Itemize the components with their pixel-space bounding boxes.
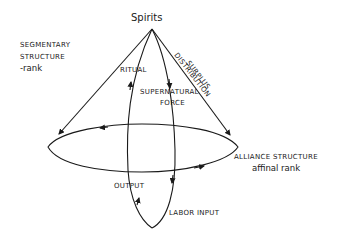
alliance-label-line1: ALLIANCE STRUCTURE	[234, 154, 318, 161]
supernatural-label-line1: SUPERNATURAL	[140, 89, 199, 96]
output-label: OUTPUT	[114, 183, 144, 190]
surplus-distribution-arrow	[152, 29, 230, 135]
segmentary-label-line1: SEGMENTARY	[20, 42, 70, 49]
cone-diagram	[0, 0, 344, 243]
segmentary-arrow	[59, 29, 152, 134]
supernatural-label-line2: FORCE	[160, 100, 185, 107]
segmentary-label-line3: -rank	[20, 64, 42, 73]
spirits-label: Spirits	[131, 13, 163, 23]
ritual-label: RITUAL	[120, 67, 147, 74]
supernatural-force-arrow	[152, 29, 175, 228]
alliance-label-line2: affinal rank	[252, 164, 300, 173]
alliance-ellipse	[48, 124, 238, 172]
labor-input-label: LABOR INPUT	[169, 210, 219, 217]
segmentary-label-line2: STRUCTURE	[20, 54, 65, 61]
ritual-arrow	[127, 29, 152, 228]
